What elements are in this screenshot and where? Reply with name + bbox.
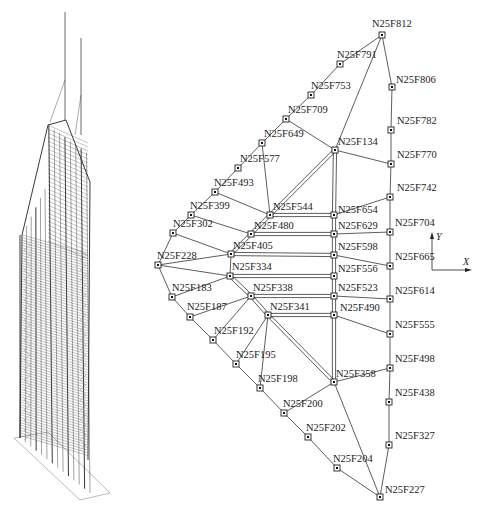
- node-label: N25F200: [283, 398, 323, 409]
- node-marker-icon: [169, 294, 175, 300]
- node-label: N25F544: [273, 201, 313, 212]
- node-marker-icon: [155, 262, 161, 268]
- node-marker-icon: [334, 465, 340, 471]
- member-line: [334, 315, 390, 334]
- node-marker-icon: [387, 263, 393, 269]
- double-member-line: [229, 277, 250, 297]
- member-line: [391, 87, 392, 130]
- node-label: N25F493: [214, 177, 254, 188]
- double-member-line: [231, 256, 334, 257]
- node-label: N25F649: [264, 128, 304, 139]
- node-label: N25F327: [395, 430, 435, 441]
- node-marker-icon: [283, 116, 289, 122]
- x-arrow-icon: [465, 268, 472, 272]
- double-member-line: [332, 150, 333, 215]
- node-marker-icon: [386, 442, 392, 448]
- node-label: N25F334: [232, 261, 272, 272]
- node-marker-icon: [379, 32, 385, 38]
- node-marker-icon: [248, 293, 254, 299]
- member-line: [334, 232, 390, 234]
- node-marker-icon: [281, 410, 287, 416]
- node-label: N25F198: [258, 373, 298, 384]
- member-line: [158, 265, 230, 276]
- member-line: [334, 382, 380, 497]
- node-marker-icon: [228, 251, 234, 257]
- node-label: N25F665: [395, 251, 435, 262]
- node-marker-icon: [331, 293, 337, 299]
- node-label: N25F598: [338, 241, 378, 252]
- node-marker-icon: [259, 140, 265, 146]
- node-label: N25F480: [254, 220, 294, 231]
- node-label: N25F358: [336, 368, 376, 379]
- node-marker-icon: [387, 296, 393, 302]
- member-line: [334, 296, 390, 299]
- node-marker-icon: [387, 229, 393, 235]
- node-label: N25F806: [396, 74, 436, 85]
- node-marker-icon: [387, 194, 393, 200]
- node-marker-icon: [257, 385, 263, 391]
- node-label: N25F577: [240, 153, 280, 164]
- axis-indicator: Y X: [430, 231, 472, 272]
- node-label: N25F195: [236, 349, 276, 360]
- node-marker-icon: [377, 494, 383, 500]
- node-marker-icon: [170, 230, 176, 236]
- node-marker-icon: [305, 434, 311, 440]
- member-line: [284, 413, 308, 437]
- node-marker-icon: [235, 165, 241, 171]
- node-label: N25F202: [306, 422, 346, 433]
- member-line: [337, 468, 380, 497]
- node-marker-icon: [387, 331, 393, 337]
- member-line: [236, 364, 260, 388]
- node-marker-icon: [332, 147, 338, 153]
- node-label: N25F556: [338, 263, 378, 274]
- node-marker-icon: [331, 252, 337, 258]
- node-label: N25F204: [333, 453, 373, 464]
- node-marker-icon: [331, 312, 337, 318]
- double-member-line: [336, 150, 337, 215]
- node-label: N25F187: [187, 301, 227, 312]
- node-label: N25F183: [172, 282, 212, 293]
- node-label: N25F704: [395, 217, 435, 228]
- node-label: N25F770: [397, 149, 437, 160]
- node-marker-icon: [267, 212, 273, 218]
- node-label: N25F709: [288, 104, 328, 115]
- node-label: N25F192: [214, 325, 254, 336]
- floor-plan-node-diagram: N25F812N25F791N25F753N25F709N25F649N25F5…: [0, 0, 498, 521]
- node-marker-icon: [331, 212, 337, 218]
- node-marker-icon: [387, 365, 393, 371]
- node-marker-icon: [187, 314, 193, 320]
- member-line: [213, 340, 236, 364]
- y-arrow-icon: [430, 232, 434, 239]
- node-marker-icon: [248, 231, 254, 237]
- node-label: N25F629: [338, 220, 378, 231]
- node-label: N25F614: [395, 285, 435, 296]
- node-label: N25F341: [270, 301, 310, 312]
- node-label: N25F228: [157, 250, 197, 261]
- member-line: [260, 388, 284, 413]
- node-marker-icon: [265, 312, 271, 318]
- node-label: N25F405: [233, 240, 273, 251]
- member-line: [389, 368, 390, 402]
- node-marker-icon: [331, 231, 337, 237]
- double-member-line: [231, 252, 334, 253]
- node-label: N25F782: [397, 115, 437, 126]
- node-marker-icon: [210, 337, 216, 343]
- node-label: N25F753: [311, 80, 351, 91]
- y-axis-label: Y: [436, 231, 443, 242]
- node-marker-icon: [386, 399, 392, 405]
- node-label: N25F555: [395, 319, 435, 330]
- member-line: [382, 35, 392, 87]
- node-marker-icon: [233, 361, 239, 367]
- member-line: [390, 164, 391, 197]
- node-marker-icon: [388, 127, 394, 133]
- node-marker-icon: [308, 92, 314, 98]
- member-line: [190, 317, 213, 340]
- node-label: N25F654: [338, 204, 378, 215]
- node-marker-icon: [331, 379, 337, 385]
- node-label: N25F338: [253, 282, 293, 293]
- node-label: N25F438: [395, 387, 435, 398]
- member-line: [335, 150, 391, 164]
- node-marker-icon: [212, 189, 218, 195]
- node-label: N25F498: [395, 353, 435, 364]
- node-marker-icon: [389, 84, 395, 90]
